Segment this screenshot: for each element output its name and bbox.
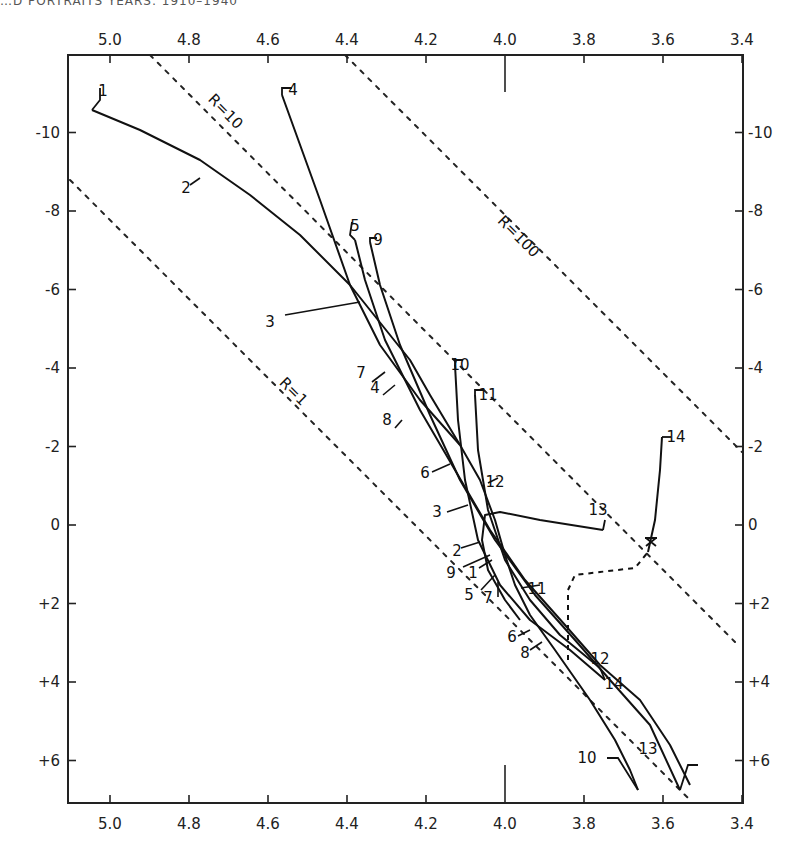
evolution-track [92,110,638,790]
curve-label: 12 [485,473,504,491]
hr-diagram: 5.05.04.84.84.64.64.44.44.24.24.04.03.83… [0,0,805,855]
radius-line [150,55,735,642]
x-tick-label-bottom: 3.6 [651,815,675,833]
giant-branch-dashed [568,552,648,660]
curve-label: 8 [382,411,392,429]
curve-label: 13 [588,501,607,519]
label-leader [432,464,450,472]
x-tick-label-top: 4.4 [335,31,359,49]
curve-label: 11 [527,580,546,598]
x-tick-label-bottom: 3.8 [572,815,596,833]
y-tick-label-left: -4 [45,359,60,377]
plot-border [68,55,743,803]
curve-label: 7 [356,364,366,382]
x-tick-label-top: 4.0 [493,31,517,49]
y-tick-label-right: -8 [748,202,763,220]
x-tick-label-top: 3.8 [572,31,596,49]
label-leader [447,505,468,512]
curve-label: 2 [181,179,191,197]
plot-frame [68,55,743,803]
x-tick-label-top: 4.2 [414,31,438,49]
axis-tick-labels: 5.05.04.84.84.64.64.44.44.24.24.04.03.83… [36,31,773,833]
x-tick-label-bottom: 4.4 [335,815,359,833]
y-tick-label-left: -2 [45,438,60,456]
y-tick-label-right: -4 [748,359,763,377]
curve-label: 9 [373,231,383,249]
x-tick-label-bottom: 4.8 [177,815,201,833]
y-tick-label-right: -2 [748,438,763,456]
y-tick-label-right: +4 [748,673,770,691]
y-tick-label-left: 0 [50,516,60,534]
y-tick-label-left: +2 [38,595,60,613]
label-leader [461,542,480,548]
label-leader [395,420,402,428]
curve-label: 10 [577,749,596,767]
curve-label: 13 [638,740,657,758]
x-tick-label-bottom: 4.2 [414,815,438,833]
y-tick-label-left: -10 [36,124,61,142]
x-tick-label-bottom: 4.0 [493,815,517,833]
curve-label: 8 [520,644,530,662]
y-tick-label-right: +6 [748,752,770,770]
curve-label: 1 [98,82,108,100]
label-leader [383,385,395,395]
y-tick-label-left: +4 [38,673,60,691]
curve-label: 9 [446,564,456,582]
curve-label: 12 [590,650,609,668]
curve-label: 3 [432,503,442,521]
radius-label: R=100 [494,212,543,261]
label-leader [518,630,530,636]
y-tick-label-left: -6 [45,281,60,299]
y-tick-label-left: -8 [45,202,60,220]
curve-label: 6 [420,464,430,482]
label-leader [285,302,360,315]
radius-lines: R=1R=10R=100 [70,55,742,800]
curve-label: 14 [666,428,685,446]
evolution-track [455,365,605,680]
curve-label: 2 [452,542,462,560]
x-tick-label-top: 4.6 [256,31,280,49]
x-tick-label-top: 4.8 [177,31,201,49]
y-tick-label-right: -6 [748,281,763,299]
curve-label: 5 [350,217,360,235]
curve-label: 4 [370,379,380,397]
curve-label: 5 [464,586,474,604]
x-tick-label-top: 5.0 [98,31,122,49]
curve-label: 3 [265,313,275,331]
y-tick-label-right: -10 [748,124,773,142]
curve-label: 10 [450,356,469,374]
axis-ticks [68,55,743,803]
curve-label: 4 [288,81,298,99]
curve-label: 1 [468,564,478,582]
radius-label: R=10 [204,90,246,133]
x-tick-label-top: 3.6 [651,31,675,49]
curve-label: 7 [483,589,493,607]
x-tick-label-bottom: 5.0 [98,815,122,833]
y-tick-label-left: +6 [38,752,60,770]
x-tick-label-bottom: 4.6 [256,815,280,833]
radius-line [345,55,742,452]
track-end-hook [603,520,605,530]
x-tick-label-bottom: 3.4 [730,815,754,833]
curve-label: 6 [507,628,517,646]
y-tick-label-right: +2 [748,595,770,613]
radius-label: R=1 [276,374,312,410]
curve-label: 14 [604,675,623,693]
evolution-track [355,240,690,785]
label-leader [190,178,200,185]
y-tick-label-right: 0 [748,516,758,534]
curve-labels: 12345974810116123131429157116812141013 [98,81,685,767]
track-end-hook [607,758,638,790]
giant-branch-to-14 [648,437,662,552]
curve-label: 11 [478,386,497,404]
radius-line [70,180,690,800]
x-tick-label-top: 3.4 [730,31,754,49]
